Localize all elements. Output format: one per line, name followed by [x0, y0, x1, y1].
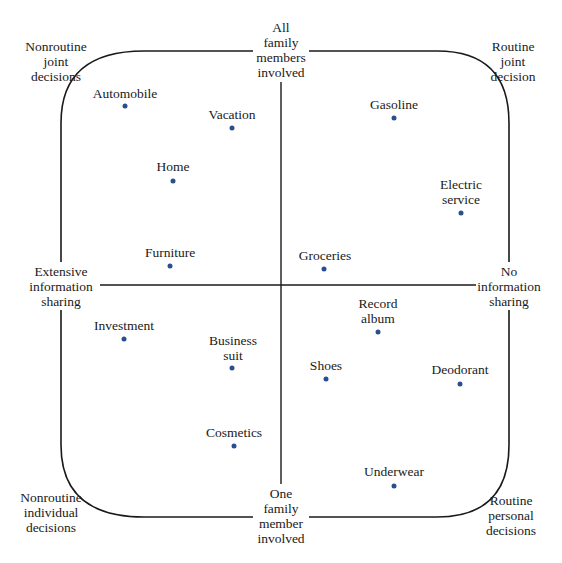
- label-line: members: [256, 50, 306, 65]
- label-line: suit: [209, 348, 257, 363]
- label-line: Business: [209, 333, 257, 348]
- label-line: family: [256, 35, 306, 50]
- label-line: Electric: [440, 177, 482, 192]
- label-line: involved: [257, 531, 304, 546]
- bottom-left-corner-label: Nonroutine individual decisions: [20, 490, 82, 535]
- point-dot-furniture: [168, 264, 173, 269]
- point-dot-automobile: [123, 104, 128, 109]
- label-line: sharing: [29, 294, 93, 309]
- label-line: Routine: [491, 39, 536, 54]
- top-axis-label: All family members involved: [256, 20, 306, 80]
- label-line: involved: [256, 65, 306, 80]
- label-line: sharing: [477, 294, 541, 309]
- label-line: joint: [25, 54, 87, 69]
- label-line: Extensive: [29, 264, 93, 279]
- label-line: decision: [491, 69, 536, 84]
- label-line: album: [359, 311, 398, 326]
- point-dot-deodorant: [458, 382, 463, 387]
- label-line: individual: [20, 505, 82, 520]
- point-label-underwear: Underwear: [364, 464, 424, 479]
- label-line: member: [257, 516, 304, 531]
- point-label-home: Home: [157, 159, 190, 174]
- rounded-frame: [61, 51, 509, 517]
- point-label-automobile: Automobile: [93, 86, 158, 101]
- point-label-gasoline: Gasoline: [370, 97, 418, 112]
- bottom-right-corner-label: Routine personal decisions: [486, 493, 536, 538]
- label-line: service: [440, 192, 482, 207]
- label-line: decisions: [25, 69, 87, 84]
- point-label-electric-service: Electric service: [440, 177, 482, 207]
- point-label-record-album: Record album: [359, 296, 398, 326]
- label-line: Routine: [486, 493, 536, 508]
- point-label-groceries: Groceries: [299, 248, 351, 263]
- top-right-corner-label: Routine joint decision: [491, 39, 536, 84]
- right-axis-label: No information sharing: [477, 264, 541, 309]
- label-line: One: [257, 486, 304, 501]
- label-line: decisions: [486, 523, 536, 538]
- bottom-axis-label: One family member involved: [257, 486, 304, 546]
- point-dot-underwear: [392, 484, 397, 489]
- point-label-investment: Investment: [94, 318, 154, 333]
- label-line: decisions: [20, 520, 82, 535]
- point-dot-electric-service: [459, 211, 464, 216]
- point-dot-gasoline: [392, 116, 397, 121]
- label-line: family: [257, 501, 304, 516]
- label-line: joint: [491, 54, 536, 69]
- point-dot-investment: [122, 337, 127, 342]
- point-dot-shoes: [324, 377, 329, 382]
- top-left-corner-label: Nonroutine joint decisions: [25, 39, 87, 84]
- point-label-furniture: Furniture: [145, 245, 195, 260]
- left-axis-label: Extensive information sharing: [29, 264, 93, 309]
- point-dot-cosmetics: [232, 444, 237, 449]
- point-label-deodorant: Deodorant: [432, 362, 489, 377]
- label-line: personal: [486, 508, 536, 523]
- point-label-cosmetics: Cosmetics: [206, 425, 262, 440]
- point-dot-groceries: [322, 267, 327, 272]
- label-line: Nonroutine: [20, 490, 82, 505]
- label-line: information: [477, 279, 541, 294]
- point-dot-record-album: [376, 330, 381, 335]
- label-line: information: [29, 279, 93, 294]
- point-dot-vacation: [230, 126, 235, 131]
- label-line: No: [477, 264, 541, 279]
- decision-diagram: All family members involved One family m…: [0, 0, 562, 563]
- point-dot-business-suit: [230, 366, 235, 371]
- point-label-vacation: Vacation: [208, 107, 255, 122]
- point-label-business-suit: Business suit: [209, 333, 257, 363]
- label-line: All: [256, 20, 306, 35]
- label-line: Record: [359, 296, 398, 311]
- label-line: Nonroutine: [25, 39, 87, 54]
- point-dot-home: [171, 179, 176, 184]
- point-label-shoes: Shoes: [310, 358, 342, 373]
